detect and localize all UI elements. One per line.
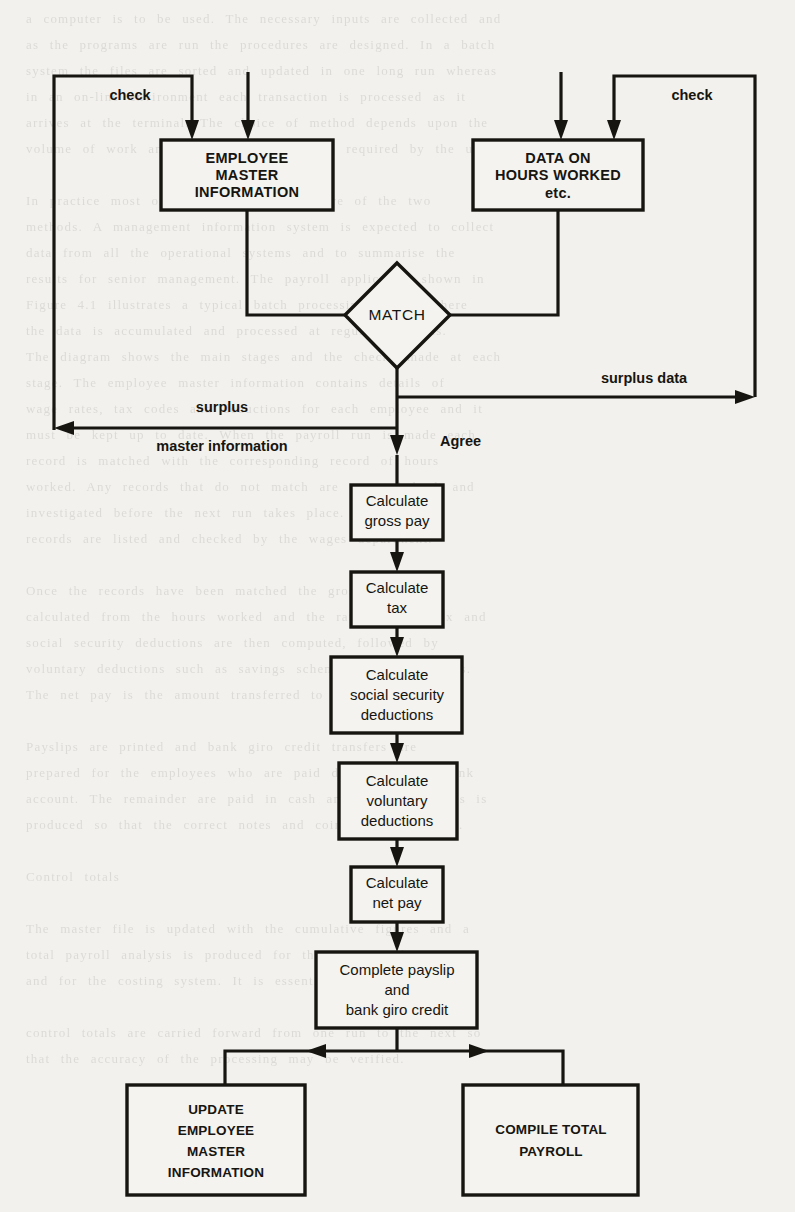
edge-check-left [54, 76, 199, 430]
node-calculate-gross-pay[interactable]: Calculate gross pay [351, 485, 443, 540]
update-master-line-4: INFORMATION [168, 1165, 264, 1180]
voluntary-line-3: deductions [361, 812, 434, 829]
arrowhead-input-hours-data [554, 120, 568, 140]
voluntary-line-2: voluntary [367, 792, 428, 809]
gross-pay-line-1: Calculate [366, 492, 429, 509]
edge-employee-master-to-match [247, 210, 345, 315]
node-match[interactable]: MATCH [345, 263, 450, 368]
node-employee-master[interactable]: EMPLOYEE MASTER INFORMATION [161, 140, 333, 210]
hours-data-line-1: DATA ON [525, 150, 590, 166]
label-surplus: surplus [196, 399, 248, 415]
edge-surplus-data: surplus data [397, 370, 755, 404]
label-agree: Agree [440, 433, 481, 449]
gross-pay-line-2: gross pay [364, 512, 430, 529]
update-master-line-1: UPDATE [188, 1102, 244, 1117]
label-check-left: check [109, 87, 151, 103]
edge-input-hours-data [554, 72, 568, 140]
arrowhead-agree [390, 435, 404, 455]
update-master-line-2: EMPLOYEE [178, 1123, 255, 1138]
update-master-line-3: MASTER [187, 1144, 245, 1159]
net-pay-line-1: Calculate [366, 874, 429, 891]
edge-check-right [607, 76, 755, 397]
node-calculate-tax[interactable]: Calculate tax [351, 572, 443, 627]
edge-tax-to-social-security [390, 627, 404, 657]
edge-agree: Agree [390, 433, 481, 485]
arrowhead-surplus-data [735, 390, 755, 404]
arrowhead-check-right [607, 120, 621, 140]
arrowhead-gross-pay-to-tax [390, 552, 404, 572]
edge-gross-pay-to-tax [390, 540, 404, 572]
edge-social-security-to-voluntary [390, 733, 404, 763]
arrowhead-tax-to-social-security [390, 637, 404, 657]
scanned-page: a computer is to be used. The necessary … [0, 0, 795, 1212]
tax-line-1: Calculate [366, 579, 429, 596]
node-compile-total-payroll[interactable]: COMPILE TOTAL PAYROLL [463, 1085, 638, 1195]
arrowhead-check-left [185, 120, 199, 140]
node-hours-data[interactable]: DATA ON HOURS WORKED etc. [473, 140, 643, 210]
social-security-line-2: social security [350, 686, 445, 703]
net-pay-line-2: net pay [372, 894, 422, 911]
compile-payroll-line-2: PAYROLL [519, 1144, 583, 1159]
match-label: MATCH [369, 306, 426, 323]
employee-master-line-1: EMPLOYEE [206, 150, 289, 166]
hours-data-line-2: HOURS WORKED [495, 167, 621, 183]
arrowhead-input-employee-master [241, 120, 255, 140]
node-calculate-social-security[interactable]: Calculate social security deductions [331, 657, 462, 733]
node-calculate-net-pay[interactable]: Calculate net pay [351, 867, 443, 922]
arrowhead-surplus-master [54, 421, 74, 435]
payslip-line-1: Complete payslip [339, 961, 454, 978]
edge-input-employee-master [241, 72, 255, 140]
edge-payslip-split [225, 1028, 563, 1085]
tax-line-2: tax [387, 599, 408, 616]
label-surplus-data: surplus data [601, 370, 688, 386]
edge-hours-data-to-match [450, 210, 558, 315]
edge-surplus-master-information: surplus master information [54, 399, 397, 454]
arrowhead-to-update-master [306, 1044, 326, 1058]
payroll-flowchart: EMPLOYEE MASTER INFORMATION DATA ON HOUR… [0, 0, 795, 1212]
arrowhead-to-compile-payroll [469, 1044, 489, 1058]
hours-data-line-3: etc. [545, 185, 571, 201]
edge-net-pay-to-payslip [390, 922, 404, 952]
node-update-employee-master[interactable]: UPDATE EMPLOYEE MASTER INFORMATION [127, 1085, 305, 1195]
node-complete-payslip[interactable]: Complete payslip and bank giro credit [316, 952, 477, 1028]
payslip-line-2: and [384, 981, 409, 998]
arrowhead-net-pay-to-payslip [390, 932, 404, 952]
social-security-line-1: Calculate [366, 666, 429, 683]
arrowhead-social-security-to-voluntary [390, 743, 404, 763]
social-security-line-3: deductions [361, 706, 434, 723]
employee-master-line-2: MASTER [215, 167, 278, 183]
arrowhead-voluntary-to-net-pay [390, 847, 404, 867]
compile-payroll-line-1: COMPILE TOTAL [495, 1122, 607, 1137]
edge-voluntary-to-net-pay [390, 839, 404, 867]
label-check-right: check [671, 87, 713, 103]
payslip-line-3: bank giro credit [346, 1001, 449, 1018]
label-master-information: master information [156, 438, 287, 454]
node-calculate-voluntary[interactable]: Calculate voluntary deductions [339, 763, 457, 839]
voluntary-line-1: Calculate [366, 772, 429, 789]
employee-master-line-3: INFORMATION [195, 184, 300, 200]
